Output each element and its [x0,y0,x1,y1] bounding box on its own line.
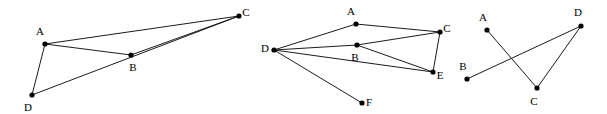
graph-edge-C-D [537,26,581,88]
vertex-label-B: B [459,60,466,72]
graph-edge-B-C [357,32,440,45]
graph-vertex-A [353,21,358,26]
graph-vertex-B [354,42,359,47]
graph-2: ABCDEF [261,5,451,108]
graph-vertex-D [578,23,583,28]
vertex-label-C: C [443,22,450,34]
figure-container: ABCDABCDEFABCD [0,0,607,114]
graph-vertex-A [42,41,47,46]
graph-2-vertices: ABCDEF [261,5,451,108]
vertex-label-F: F [366,96,372,108]
vertex-label-E: E [437,69,444,81]
vertex-label-D: D [24,101,32,113]
graph-2-edges [274,24,440,103]
graph-vertex-C [437,29,442,34]
graph-edge-A-C [487,30,537,88]
graph-edge-A-C [45,16,239,44]
graph-vertex-C [534,85,539,90]
vertex-label-D: D [261,42,269,54]
graph-1: ABCD [24,6,250,113]
graph-edge-A-D [32,44,45,95]
graph-vertex-A [484,27,489,32]
graph-diagram-canvas: ABCDABCDEFABCD [0,0,607,114]
graph-vertex-F [359,100,364,105]
vertex-label-A: A [347,5,355,17]
graph-1-edges [32,16,239,95]
graph-edge-A-C [356,24,440,32]
graph-edge-D-C [32,16,239,95]
vertex-label-B: B [129,61,136,73]
vertex-label-C: C [530,95,537,107]
vertex-label-A: A [479,11,487,23]
graph-3-edges [467,26,581,88]
graph-edge-A-B [45,44,131,55]
graph-edge-D-F [274,50,362,103]
vertex-label-D: D [574,6,582,18]
graph-vertex-D [29,92,34,97]
graph-edge-C-E [433,32,440,72]
graph-vertex-C [236,13,241,18]
graphs-layer: ABCDABCDEFABCD [24,5,584,113]
graph-vertex-E [430,69,435,74]
graph-3-vertices: ABCD [459,6,583,107]
graph-edge-B-E [357,45,433,72]
vertex-label-B: B [351,51,358,63]
graph-vertex-D [271,47,276,52]
graph-edge-B-D [467,26,581,79]
graph-vertex-B [464,76,469,81]
graph-1-vertices: ABCD [24,6,250,113]
graph-3: ABCD [459,6,583,107]
graph-vertex-B [128,52,133,57]
vertex-label-A: A [36,25,44,37]
vertex-label-C: C [242,6,249,18]
